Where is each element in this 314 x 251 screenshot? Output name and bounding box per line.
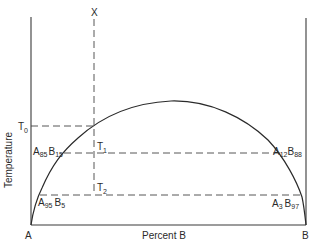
t0-label: T0 (18, 121, 28, 134)
composition-a3-b97: A3B97 (272, 198, 299, 210)
x-axis-title: Percent B (142, 230, 186, 241)
y-axis-title: Temperature (3, 131, 14, 188)
solvus-curve (31, 101, 306, 225)
composition-a12-b88: A12B88 (273, 146, 302, 158)
t2-label: T2 (97, 182, 107, 195)
composition-label-x: X (91, 7, 98, 18)
caption-fragment (72, 247, 102, 251)
t1-label: T1 (97, 141, 107, 154)
phase-diagram: X T0 T1 T2 A85B15 A12B88 A95B5 A3B97 A B… (0, 0, 314, 251)
composition-a95-b5: A95B5 (38, 197, 65, 209)
endpoint-a-label: A (25, 230, 32, 241)
composition-a85-b15: A85B15 (33, 146, 63, 158)
endpoint-b-label: B (302, 230, 309, 241)
